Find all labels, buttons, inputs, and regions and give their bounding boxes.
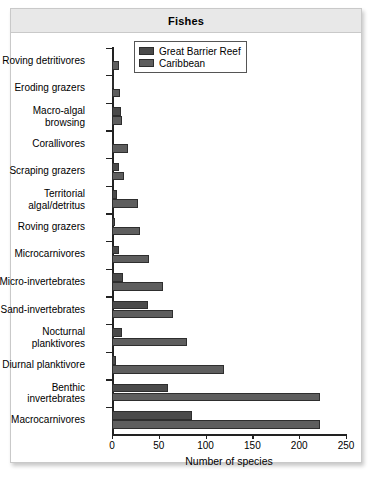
bar-great-barrier-reef [112,384,168,393]
x-axis-tick [159,434,160,439]
x-axis-tick [206,434,207,439]
bar-caribbean [112,172,124,181]
bar-caribbean [112,282,163,291]
y-axis-category-label: Scraping grazers [0,166,85,178]
bar-caribbean [112,393,320,402]
y-axis-category-label: Nocturnal planktivores [0,326,85,349]
y-axis-category-label: Eroding grazers [0,83,85,95]
chart-legend: Great Barrier Reef Caribbean [134,41,247,73]
y-axis-category-label: Microcarnivores [0,249,85,261]
x-axis-tick [346,434,347,439]
bar-great-barrier-reef [112,273,123,282]
y-axis-tick [106,213,112,214]
y-axis-tick [106,186,112,187]
y-axis-tick [106,75,112,76]
y-axis-category-label: Macro-algal browsing [0,105,85,128]
y-axis-tick [106,103,112,104]
y-axis-line [112,47,114,434]
legend-item: Caribbean [139,57,241,69]
bar-caribbean [112,365,224,374]
bar-caribbean [112,61,119,70]
bar-great-barrier-reef [112,163,119,172]
bar-great-barrier-reef [112,246,119,255]
y-axis-category-label: Sand-invertebrates [0,304,85,316]
bar-caribbean [112,144,128,153]
bar-great-barrier-reef [112,190,117,199]
y-axis-tick [106,130,112,131]
x-axis-tick-label: 250 [338,440,355,451]
plot-area: Roving detritivoresEroding grazersMacro-… [11,33,363,463]
x-axis-tick [299,434,300,439]
x-axis-tick-label: 50 [153,440,164,451]
x-axis-tick-label: 0 [109,440,115,451]
bar-great-barrier-reef [112,301,148,310]
y-axis-tick [106,352,112,353]
y-axis-tick [106,269,112,270]
x-axis-tick-label: 150 [244,440,261,451]
bar-great-barrier-reef [112,328,122,337]
bar-great-barrier-reef [112,80,114,89]
bar-caribbean [112,116,122,125]
x-axis-tick-label: 100 [197,440,214,451]
y-axis-tick [106,324,112,325]
y-axis-tick [106,296,112,297]
y-axis-category-label: Corallivores [0,138,85,150]
bar-caribbean [112,420,320,429]
panel-title-bar: Fishes [11,9,361,33]
y-axis-tick [106,158,112,159]
legend-swatch-caribbean [139,59,154,67]
bar-caribbean [112,338,187,347]
x-axis-tick [112,434,113,439]
legend-swatch-great-barrier-reef [139,47,154,55]
bar-great-barrier-reef [112,411,192,420]
bar-caribbean [112,227,140,236]
page-title: Fishes [168,15,204,27]
bar-caribbean [112,89,120,98]
bar-caribbean [112,255,149,264]
bar-great-barrier-reef [112,356,116,365]
y-axis-category-label: Territorial algal/detritus [0,188,85,211]
x-axis-tick-label: 200 [291,440,308,451]
chart-panel: Fishes Roving detritivoresEroding grazer… [10,8,362,463]
y-axis-category-label: Macrocarnivores [0,414,85,426]
y-axis-category-label: Micro-invertebrates [0,276,85,288]
x-axis-tick [252,434,253,439]
y-axis-category-label: Roving detritivores [0,55,85,67]
y-axis-tick [106,379,112,380]
bar-caribbean [112,199,138,208]
bar-great-barrier-reef [112,107,121,116]
bar-great-barrier-reef [112,218,115,227]
bar-caribbean [112,310,173,319]
y-axis-tick [106,241,112,242]
legend-label-caribbean: Caribbean [159,58,205,69]
legend-label-great-barrier-reef: Great Barrier Reef [159,46,241,57]
y-axis-tick [106,407,112,408]
legend-item: Great Barrier Reef [139,45,241,57]
y-axis-category-label: Benthic invertebrates [0,381,85,404]
y-axis-category-label: Diurnal planktivore [0,359,85,371]
y-axis-tick [106,48,112,49]
x-axis-label: Number of species [112,455,346,467]
y-axis-category-label: Roving grazers [0,221,85,233]
x-axis-line [112,434,346,436]
